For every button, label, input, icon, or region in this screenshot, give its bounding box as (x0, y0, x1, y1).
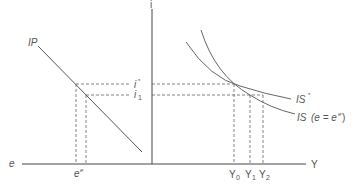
axis-label-i: i (150, 0, 152, 10)
is-star-label: IS * (296, 92, 311, 105)
svg-text:Y: Y (229, 169, 236, 180)
ip-curve-label: IP (28, 37, 38, 48)
svg-text:Y: Y (245, 169, 252, 180)
svg-text:): ) (342, 112, 345, 123)
e-e-tick-label: e e (74, 167, 84, 179)
svg-text:*: * (138, 78, 141, 84)
is-label: IS (e = e e ) (297, 111, 345, 123)
svg-text:i: i (134, 89, 137, 100)
is-ip-diagram: i e Y IP i * i 1 e e IS * IS (e = e e ) (0, 0, 358, 192)
svg-text:1: 1 (252, 174, 256, 181)
svg-text:IS: IS (296, 94, 306, 105)
svg-text:(e = e: (e = e (311, 112, 337, 123)
is-curve (201, 30, 295, 114)
y1-tick-label: Y 1 (245, 169, 256, 181)
y0-tick-label: Y 0 (229, 169, 240, 181)
i-one-label: i 1 (134, 89, 142, 101)
svg-text:0: 0 (236, 174, 240, 181)
axis-label-e: e (9, 158, 15, 169)
svg-text:Y: Y (259, 169, 266, 180)
axis-label-y: Y (311, 159, 318, 170)
svg-text:e: e (80, 167, 84, 173)
svg-text:*: * (308, 92, 311, 98)
y2-tick-label: Y 2 (259, 169, 270, 181)
is-star-curve (186, 42, 291, 99)
svg-text:1: 1 (138, 94, 142, 101)
svg-text:2: 2 (266, 174, 270, 181)
ip-curve (38, 46, 142, 152)
svg-text:IS: IS (297, 112, 307, 123)
